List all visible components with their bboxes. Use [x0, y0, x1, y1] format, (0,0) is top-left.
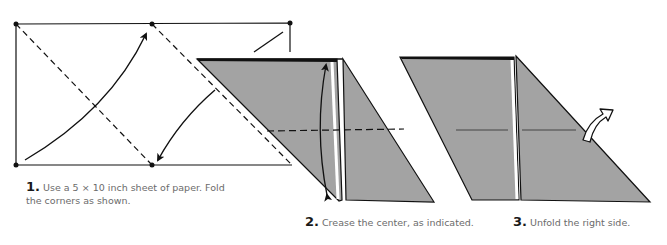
step-2-caption: 2.Crease the center, as indicated.: [305, 215, 505, 229]
step-text: Use a 5 × 10 inch sheet of paper. Fold t…: [26, 182, 225, 206]
step-3-caption: 3.Unfold the right side.: [513, 215, 663, 229]
point-dot: [14, 22, 19, 27]
point-dot: [14, 163, 19, 168]
corner-edge: [254, 32, 283, 52]
fold-arrow-icon: [25, 34, 146, 160]
point-dot: [288, 21, 293, 26]
step-text: Unfold the right side.: [530, 217, 630, 228]
unfold-arrow-icon: [583, 109, 613, 142]
point-dot: [150, 163, 155, 168]
step-1-caption: 1.Use a 5 × 10 inch sheet of paper. Fold…: [26, 180, 226, 207]
point-dot: [150, 22, 155, 27]
step-text: Crease the center, as indicated.: [322, 217, 474, 228]
step-2-shape: [197, 59, 434, 202]
fold-arrow-icon: [158, 90, 215, 160]
step-number: 3.: [513, 214, 527, 229]
step-3-shape: [400, 56, 650, 202]
fold-dash-left: [16, 24, 152, 165]
step-number: 1.: [26, 179, 40, 194]
origami-diagram: [0, 0, 667, 245]
step-number: 2.: [305, 214, 319, 229]
